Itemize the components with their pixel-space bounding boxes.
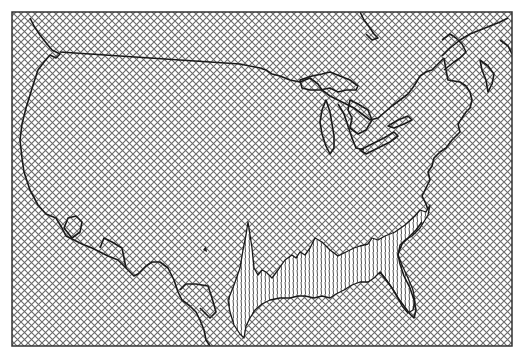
map-figure	[0, 0, 525, 358]
map-canvas	[0, 0, 525, 358]
